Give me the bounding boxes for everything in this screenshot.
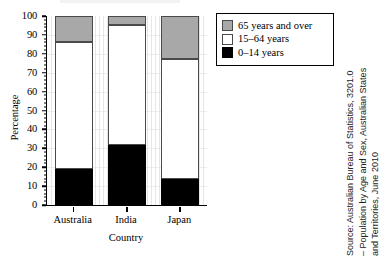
y-tick-label: 50 (27, 106, 37, 116)
vertical-gridline (159, 16, 160, 205)
x-axis-title: Country (46, 232, 206, 243)
x-axis: AustraliaIndiaJapan (0, 207, 215, 235)
y-tick-label: 60 (27, 87, 37, 97)
y-tick-label: 80 (27, 49, 37, 59)
vertical-gridline (99, 16, 100, 205)
y-tick-label: 70 (27, 68, 37, 78)
vertical-gridline (95, 16, 96, 205)
bar-segment (161, 59, 199, 179)
white-swatch (222, 34, 233, 45)
vertical-gridline (51, 16, 52, 205)
vertical-gridline (155, 16, 156, 205)
y-tick-label: 20 (27, 162, 37, 172)
x-tick-label-india: India (115, 214, 137, 225)
legend: 65 years and over15–64 years0–14 years (216, 13, 334, 66)
vertical-gridline (147, 16, 148, 205)
x-tick-mark (179, 207, 181, 212)
bar-segment (55, 16, 93, 42)
y-tick-label: 100 (22, 11, 37, 21)
bar-segment (108, 16, 146, 25)
legend-item: 15–64 years (222, 33, 328, 45)
black-swatch (222, 47, 233, 58)
plot-area (46, 16, 207, 206)
legend-item-label: 65 years and over (238, 20, 312, 32)
chart-page: 0102030405060708090100 Percentage Austra… (0, 0, 390, 261)
bar-segment (108, 25, 146, 145)
bar-segment (55, 169, 93, 205)
bar-australia (55, 16, 93, 205)
bar-segment (55, 42, 93, 169)
y-tick-label: 90 (27, 30, 37, 40)
source-note-text: Source: Australian Bureau of Statistics,… (344, 6, 382, 256)
x-tick-label-australia: Australia (53, 214, 92, 225)
vertical-gridline (151, 16, 152, 205)
vertical-gridline (203, 16, 204, 205)
x-tick-mark (73, 207, 75, 212)
bar-india (108, 16, 146, 205)
y-tick-label: 10 (27, 181, 37, 191)
y-tick-label: 40 (27, 124, 37, 134)
bar-japan (161, 16, 199, 205)
y-tick-label: 30 (27, 143, 37, 153)
legend-item-label: 0–14 years (238, 47, 284, 59)
source-line: – Population by Age and Sex, Australian … (357, 6, 370, 256)
gray-swatch (222, 20, 233, 31)
source-note: Source: Australian Bureau of Statistics,… (336, 0, 390, 261)
source-line: and Territories, June 2010 (369, 6, 382, 256)
vertical-gridline (103, 16, 104, 205)
bar-segment (161, 16, 199, 59)
y-axis-title: Percentage (9, 68, 20, 168)
bar-segment (161, 179, 199, 205)
stacked-bar-chart: 0102030405060708090100 Percentage Austra… (0, 0, 215, 261)
legend-item-label: 15–64 years (238, 33, 289, 45)
x-tick-label-japan: Japan (167, 214, 191, 225)
legend-item: 0–14 years (222, 47, 328, 59)
x-tick-mark (126, 207, 128, 212)
source-line: Source: Australian Bureau of Statistics,… (344, 6, 357, 256)
bar-segment (108, 145, 146, 205)
legend-item: 65 years and over (222, 20, 328, 32)
